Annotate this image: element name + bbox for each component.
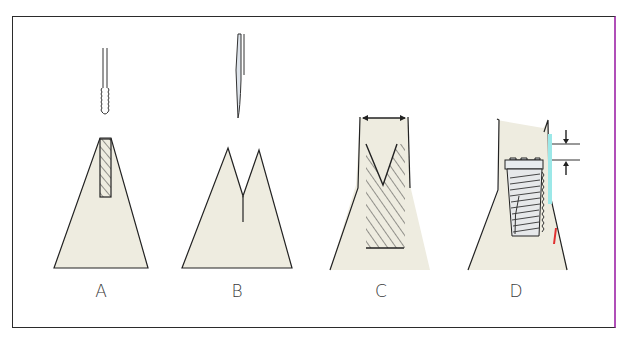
osteotomy-a [100, 139, 111, 197]
panel-a [54, 48, 148, 268]
panel-c [330, 115, 430, 270]
panel-d [468, 118, 580, 270]
depth-indicator-icon [552, 130, 580, 175]
implant-icon [505, 158, 544, 236]
pilot-drill-icon [101, 48, 109, 114]
osteotome-icon [236, 34, 241, 118]
panel-label-c: C [366, 281, 396, 301]
panel-label-b: B [222, 281, 252, 301]
panel-b [182, 34, 292, 268]
panel-label-a: A [86, 281, 116, 301]
panel-label-d: D [501, 281, 531, 301]
bone-ridge-b [182, 148, 292, 268]
